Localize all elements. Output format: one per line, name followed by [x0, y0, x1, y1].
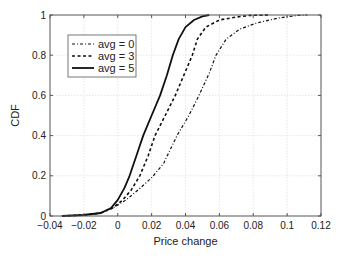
x-tick-label: −0.02 [71, 220, 97, 231]
y-tick-label: 0.4 [32, 130, 46, 141]
y-tick-label: 0.6 [32, 90, 46, 101]
legend-label: avg = 5 [98, 62, 134, 74]
legend-label: avg = 3 [98, 50, 134, 62]
legend: avg = 0avg = 3avg = 5 [68, 35, 136, 77]
y-tick-label: 0.2 [32, 170, 46, 181]
x-tick-label: 0.02 [142, 220, 162, 231]
y-axis-label: CDF [9, 104, 21, 127]
y-tick-label: 0.8 [32, 50, 46, 61]
legend-label: avg = 0 [98, 38, 134, 50]
y-tick-label: 0 [40, 211, 46, 222]
x-tick-label: 0.04 [176, 220, 196, 231]
x-tick-label: 0.1 [280, 220, 294, 231]
x-tick-label: −0.04 [37, 220, 63, 231]
chart-background [0, 0, 345, 256]
x-axis-label: Price change [153, 235, 217, 247]
cdf-chart: −0.04−0.0200.020.040.060.080.10.1200.20.… [0, 0, 345, 256]
x-tick-label: 0 [115, 220, 121, 231]
y-tick-label: 1 [40, 10, 46, 21]
x-tick-label: 0.12 [311, 220, 331, 231]
x-tick-label: 0.08 [244, 220, 264, 231]
x-tick-label: 0.06 [210, 220, 230, 231]
